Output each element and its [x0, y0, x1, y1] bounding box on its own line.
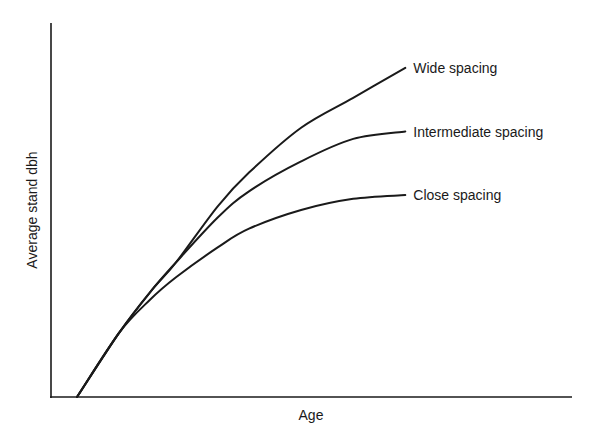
- series-label-intermediate-spacing: Intermediate spacing: [413, 124, 543, 140]
- series-line-close-spacing: [77, 195, 405, 397]
- x-axis-label: Age: [299, 407, 324, 423]
- series-line-intermediate-spacing: [77, 132, 405, 398]
- y-axis-label: Average stand dbh: [24, 151, 40, 268]
- series-label-close-spacing: Close spacing: [413, 187, 501, 203]
- series-layer: Wide spacingIntermediate spacingClose sp…: [77, 60, 543, 397]
- series-label-wide-spacing: Wide spacing: [413, 60, 497, 76]
- chart: Age Average stand dbh Wide spacingInterm…: [0, 0, 600, 440]
